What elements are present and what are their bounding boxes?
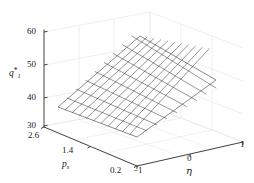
z-tick-40: 40 — [27, 93, 36, 102]
p-axis-label: ps — [62, 160, 69, 172]
surface-plot-figure: 60 50 40 30 q*1 2.6 1.4 0.2 ps −1 0 1 η — [0, 0, 254, 183]
eta-tick-minus-1: −1 — [133, 166, 143, 175]
z-axis-label: q*1 — [9, 66, 21, 81]
eta-tick-0: 0 — [187, 154, 192, 163]
eta-tick-1: 1 — [240, 140, 245, 149]
p-axis-label-subscript: s — [67, 163, 70, 170]
p-tick-2-6: 2.6 — [28, 131, 39, 140]
z-tick-30: 30 — [27, 121, 36, 130]
z-axis-ticks — [44, 31, 48, 126]
z-tick-60: 60 — [27, 27, 36, 36]
plot-canvas — [0, 0, 254, 183]
p-tick-1-4: 1.4 — [62, 146, 73, 155]
z-axis-label-subscript: 1 — [18, 72, 21, 79]
p-axis-ticks — [41, 127, 137, 168]
z-tick-50: 50 — [27, 60, 36, 69]
mesh-surface — [58, 36, 216, 137]
p-tick-0-2: 0.2 — [110, 166, 121, 175]
eta-axis-label: η — [186, 166, 192, 176]
